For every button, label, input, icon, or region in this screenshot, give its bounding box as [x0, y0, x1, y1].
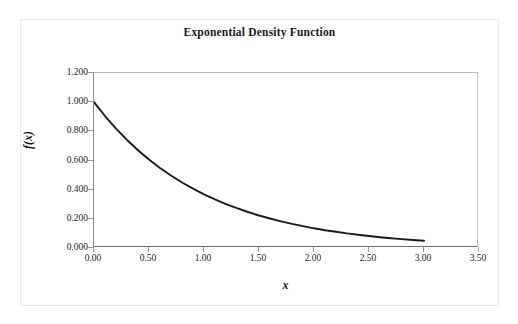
x-axis-tick-labels: 0.000.501.001.502.002.503.003.50	[93, 253, 478, 269]
x-tick-mark	[148, 247, 149, 252]
series-line-fx	[94, 102, 424, 241]
x-tick-label: 2.00	[288, 253, 338, 263]
x-tick-label: 1.50	[233, 253, 283, 263]
x-tick-label: 1.00	[178, 253, 228, 263]
plot-curve-svg	[94, 73, 479, 248]
y-tick-mark	[88, 101, 93, 102]
chart-title: Exponential Density Function	[20, 26, 499, 38]
x-tick-mark	[423, 247, 424, 252]
y-tick-label: 1.200	[42, 67, 88, 77]
y-tick-mark	[88, 218, 93, 219]
y-tick-label: 0.200	[42, 213, 88, 223]
y-tick-mark	[88, 72, 93, 73]
x-tick-label: 0.00	[68, 253, 118, 263]
chart-screenshot: Exponential Density Function 0.0000.2000…	[0, 0, 518, 324]
x-axis-title: x	[93, 278, 478, 293]
x-tick-mark	[368, 247, 369, 252]
y-tick-label: 0.600	[42, 155, 88, 165]
x-tick-mark	[258, 247, 259, 252]
y-tick-label: 1.000	[42, 96, 88, 106]
y-tick-label: 0.800	[42, 125, 88, 135]
x-tick-label: 0.50	[123, 253, 173, 263]
x-tick-mark	[313, 247, 314, 252]
y-tick-label: 0.000	[42, 242, 88, 252]
y-tick-mark	[88, 189, 93, 190]
y-axis-tick-labels: 0.0000.2000.4000.6000.8001.0001.200	[40, 72, 88, 247]
y-tick-label: 0.400	[42, 184, 88, 194]
x-tick-label: 2.50	[343, 253, 393, 263]
x-tick-label: 3.50	[453, 253, 503, 263]
x-tick-mark	[478, 247, 479, 252]
y-axis-title: f(x)	[21, 131, 36, 149]
y-tick-mark	[88, 160, 93, 161]
x-tick-mark	[93, 247, 94, 252]
x-tick-label: 3.00	[398, 253, 448, 263]
y-tick-mark	[88, 130, 93, 131]
x-tick-mark	[203, 247, 204, 252]
plot-area	[93, 72, 478, 247]
